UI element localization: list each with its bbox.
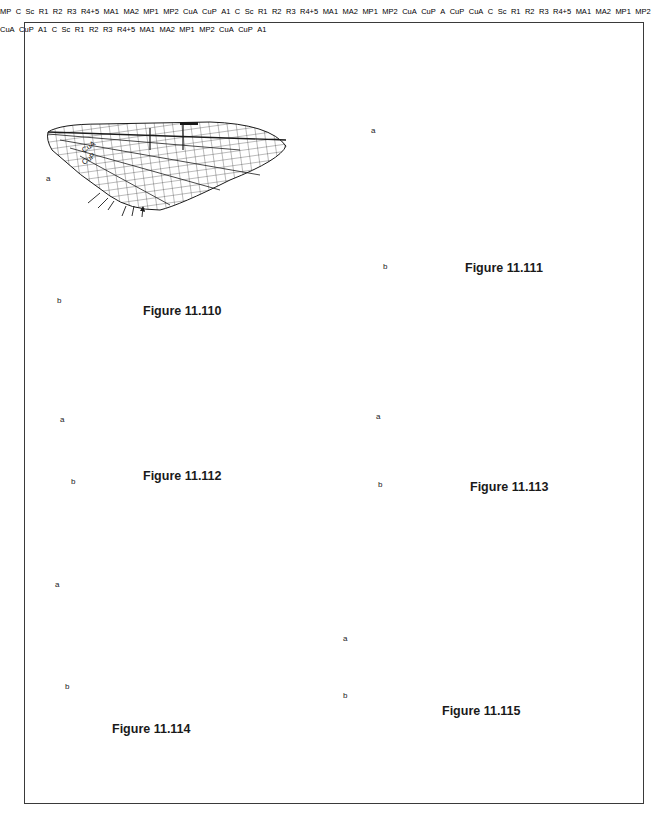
caption-figure-11-114: Figure 11.114 <box>112 722 191 736</box>
panel-label-11-114-b: b <box>65 682 69 691</box>
panel-label-11-113-a: a <box>376 412 380 421</box>
caption-figure-11-111: Figure 11.111 <box>465 261 543 275</box>
caption-figure-11-115: Figure 11.115 <box>442 704 521 718</box>
panel-label-11-111-a: a <box>371 126 375 135</box>
panel-label-11-111-b: b <box>383 262 387 271</box>
panel-label-11-115-b: b <box>343 691 347 700</box>
panel-label-11-110-b: b <box>57 296 61 305</box>
panel-label-11-114-a: a <box>55 580 59 589</box>
wing-illustrations: CuA CuP <box>0 0 664 831</box>
panel-label-11-110-a: a <box>46 174 50 183</box>
panel-label-11-112-b: b <box>71 477 75 486</box>
panel-label-11-115-a: a <box>343 634 347 643</box>
caption-figure-11-110: Figure 11.110 <box>143 304 222 318</box>
panel-label-11-113-b: b <box>378 480 382 489</box>
caption-figure-11-113: Figure 11.113 <box>470 480 549 494</box>
wing-11-110-a: CuA CuP <box>48 122 287 217</box>
caption-figure-11-112: Figure 11.112 <box>143 469 222 483</box>
panel-label-11-112-a: a <box>60 415 64 424</box>
